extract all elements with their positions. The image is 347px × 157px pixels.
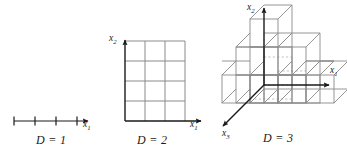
d1-caption: D = 1 xyxy=(36,133,66,148)
d3-axis-label-x3: x3 xyxy=(222,128,230,140)
d3-axis-label-x1: x1 xyxy=(330,65,338,77)
d3-axes xyxy=(223,8,329,126)
d1-axis-label-x1: x1 xyxy=(83,119,91,131)
d3-cube-stack xyxy=(222,5,347,103)
d3-axis-label-x2: x2 xyxy=(247,2,255,14)
d2-grid xyxy=(125,41,185,121)
d2-axis-label-x1: x1 xyxy=(190,119,198,131)
d3-hidden-edges xyxy=(237,33,306,112)
d1-axis-x1 xyxy=(14,117,88,126)
d3-axis-x3 xyxy=(223,85,264,126)
d2-axis-label-x2: x2 xyxy=(109,33,117,45)
d2-caption: D = 2 xyxy=(137,133,167,148)
d3-caption: D = 3 xyxy=(263,131,293,146)
panel-d1 xyxy=(14,117,88,126)
panel-d3 xyxy=(222,5,347,126)
panel-d2 xyxy=(125,40,201,121)
